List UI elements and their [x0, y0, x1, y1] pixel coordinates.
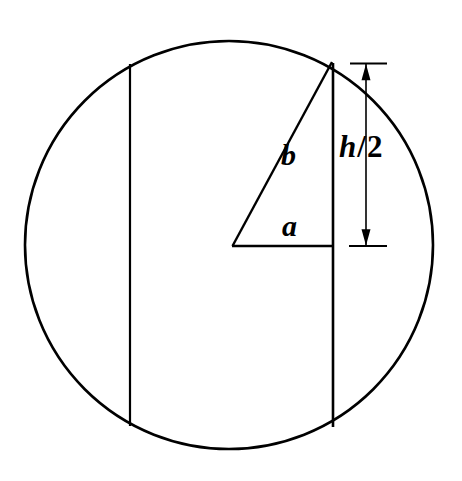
dimension-arrow-down-icon [362, 229, 371, 245]
label-hypotenuse-b: b [281, 140, 296, 170]
figure-canvas [0, 0, 462, 481]
geometry-figure: a b h/2 [0, 0, 462, 481]
label-dimension-slash: / [356, 129, 367, 164]
label-dimension-h-over-2: h/2 [339, 131, 382, 162]
label-dimension-denominator: 2 [367, 129, 383, 164]
label-leg-a: a [282, 211, 297, 241]
dimension-arrow-up-icon [362, 64, 371, 80]
label-dimension-variable: h [339, 129, 356, 164]
